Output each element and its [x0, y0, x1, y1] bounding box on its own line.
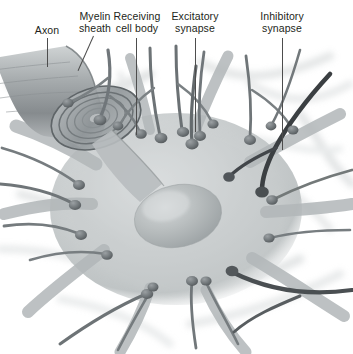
- leader-axon: [47, 38, 48, 67]
- neuron-illustration: [0, 44, 353, 354]
- leader-inhibitory: [282, 38, 283, 150]
- label-receiving-cell-body: Receiving cell body: [105, 10, 169, 34]
- label-axon: Axon: [22, 24, 72, 36]
- leader-cell-body: [136, 38, 137, 135]
- leader-excitatory: [195, 38, 196, 132]
- neuron-diagram: Axon Myelin sheath Receiving cell body E…: [0, 0, 353, 354]
- label-inhibitory-synapse: Inhibitory synapse: [251, 10, 313, 34]
- label-excitatory-synapse: Excitatory synapse: [163, 10, 227, 34]
